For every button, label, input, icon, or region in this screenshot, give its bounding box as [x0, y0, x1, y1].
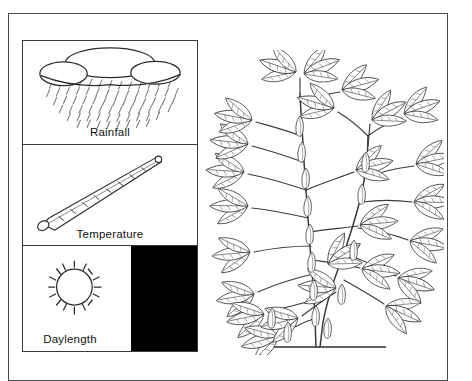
legend-label-temperature: Temperature [23, 228, 197, 240]
legend-panel-temperature: Temperature [23, 145, 197, 246]
plant-main-stem [300, 94, 368, 347]
legend-label-rainfall: Rainfall [23, 126, 197, 138]
legend-panel-daylength: Daylength [23, 246, 197, 351]
sun-icon [49, 261, 101, 314]
legend-box: Rainfall [22, 40, 198, 352]
legume-plant-illustration [196, 50, 444, 355]
plant-leaves-left [204, 50, 403, 355]
plant-leaves-right [256, 75, 444, 348]
legend-panel-rainfall: Rainfall [23, 41, 197, 145]
moon-icon [141, 259, 167, 311]
legend-label-daylength: Daylength [33, 333, 107, 345]
